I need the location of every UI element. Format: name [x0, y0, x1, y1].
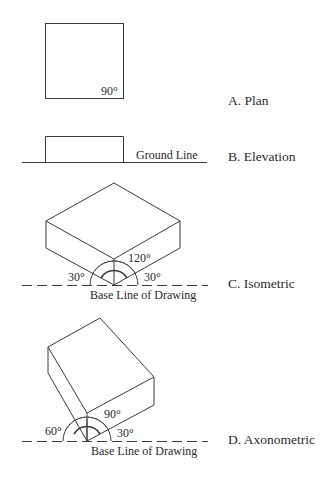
axonometric-angle-30: 30° [117, 426, 134, 440]
plan-angle-label: 90° [101, 84, 118, 98]
ground-line-label: Ground Line [136, 148, 198, 162]
caption-elevation: B. Elevation [228, 149, 296, 165]
isometric-angle-30-left: 30° [68, 270, 85, 284]
axonometric-box [48, 318, 154, 441]
caption-isometric: C. Isometric [228, 276, 295, 292]
isometric-angle-120: 120° [128, 251, 151, 265]
caption-plan: A. Plan [228, 93, 269, 109]
axonometric-angle-60: 60° [45, 424, 62, 438]
elevation-rectangle [46, 137, 124, 163]
isometric-angle-30-right: 30° [144, 270, 161, 284]
axonometric-angle-90: 90° [104, 407, 121, 421]
caption-axonometric: D. Axonometric [228, 432, 315, 448]
projection-diagram: 90° Ground Line 120° 30° 30° Base Line o… [0, 0, 328, 477]
axonometric-base-line-label: Base Line of Drawing [91, 444, 197, 458]
isometric-base-line-label: Base Line of Drawing [90, 288, 196, 302]
